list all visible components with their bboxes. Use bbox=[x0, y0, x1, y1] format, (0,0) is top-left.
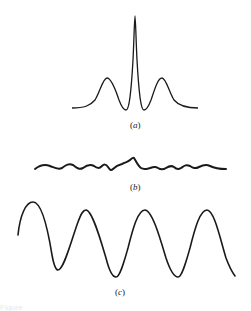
panel-c-label: (c) bbox=[115, 287, 125, 297]
panel-b: (b) bbox=[35, 158, 226, 192]
panel-b-label: (b) bbox=[130, 182, 141, 192]
caption-fragment: Figure bbox=[0, 303, 23, 311]
panel-c-curve bbox=[18, 202, 235, 277]
panel-c: (c) bbox=[18, 202, 235, 297]
panel-a-label: (a) bbox=[130, 120, 141, 130]
figure-canvas: (a) (b) (c) Figure bbox=[0, 0, 251, 311]
panel-a-curve bbox=[72, 16, 198, 110]
panel-a: (a) bbox=[72, 16, 198, 130]
panel-b-curve bbox=[35, 158, 226, 170]
